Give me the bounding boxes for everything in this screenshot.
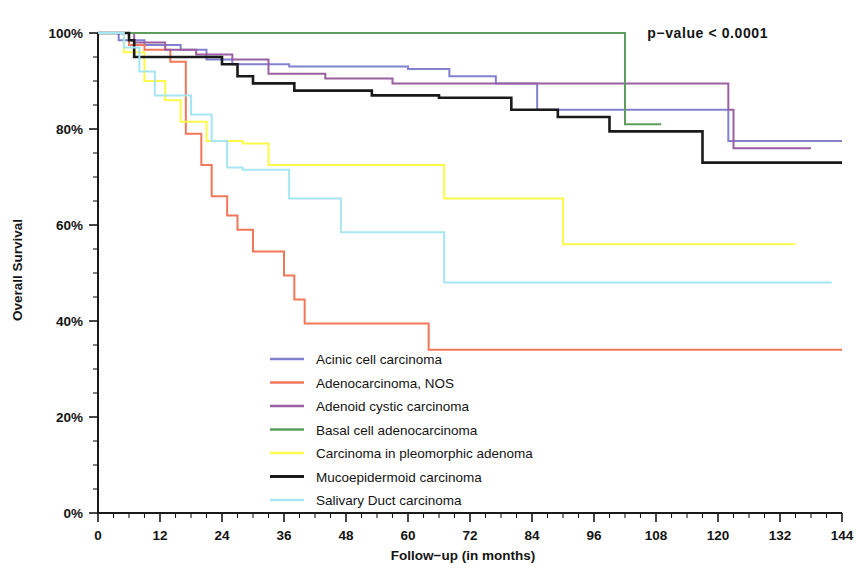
- legend-label: Adenocarcinoma, NOS: [316, 376, 454, 391]
- legend-label: Mucoepidermoid carcinoma: [316, 470, 482, 485]
- x-axis-title: Follow−up (in months): [391, 548, 535, 563]
- x-tick-label: 36: [276, 528, 292, 543]
- survival-curve: [98, 33, 842, 141]
- x-tick-label: 132: [769, 528, 792, 543]
- x-tick-label: 108: [645, 528, 668, 543]
- legend-label: Acinic cell carcinoma: [316, 352, 443, 367]
- x-tick-label: 0: [94, 528, 102, 543]
- chart-legend: Acinic cell carcinomaAdenocarcinoma, NOS…: [270, 352, 533, 508]
- y-tick-label: 0%: [63, 506, 83, 521]
- x-tick-label: 24: [214, 528, 230, 543]
- x-tick-label: 96: [586, 528, 602, 543]
- x-tick-label: 12: [152, 528, 167, 543]
- survival-curves: [98, 33, 842, 350]
- x-tick-label: 72: [462, 528, 477, 543]
- x-axis-tick-labels: 01224364860728496108120132144: [94, 528, 854, 543]
- y-axis-tick-labels: 0%20%40%60%80%100%: [48, 26, 83, 521]
- x-tick-label: 144: [831, 528, 854, 543]
- y-tick-label: 40%: [56, 314, 83, 329]
- legend-label: Salivary Duct carcinoma: [316, 493, 462, 508]
- survival-plot-svg: 01224364860728496108120132144 0%20%40%60…: [0, 0, 856, 572]
- survival-curve: [98, 33, 842, 350]
- axis-frame: [98, 33, 842, 513]
- kaplan-meier-chart: 01224364860728496108120132144 0%20%40%60…: [0, 0, 856, 572]
- y-tick-label: 100%: [48, 26, 83, 41]
- x-tick-label: 120: [707, 528, 730, 543]
- x-axis-ticks: [98, 513, 842, 522]
- legend-label: Adenoid cystic carcinoma: [316, 399, 470, 414]
- legend-label: Carcinoma in pleomorphic adenoma: [316, 446, 533, 461]
- legend-label: Basal cell adenocarcinoma: [316, 423, 478, 438]
- x-tick-label: 48: [338, 528, 354, 543]
- y-tick-label: 20%: [56, 410, 83, 425]
- survival-curve: [98, 33, 796, 244]
- y-tick-label: 60%: [56, 218, 83, 233]
- plot-axes: [98, 33, 842, 513]
- chart-annotations: p−value < 0.0001: [647, 25, 768, 41]
- x-tick-label: 60: [400, 528, 415, 543]
- x-tick-label: 84: [524, 528, 540, 543]
- y-axis-title: Overall Survival: [10, 219, 25, 321]
- survival-curve: [98, 33, 842, 163]
- p-value-annotation: p−value < 0.0001: [647, 25, 768, 41]
- y-tick-label: 80%: [56, 122, 83, 137]
- y-axis-ticks: [89, 33, 98, 513]
